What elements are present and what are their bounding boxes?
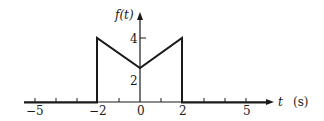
x-tick-label-0: 0 xyxy=(137,105,145,117)
function-plot xyxy=(0,0,324,121)
function-curve xyxy=(24,38,268,103)
y-tick-label-4: 4 xyxy=(130,33,138,45)
x-axis-label: t xyxy=(278,96,283,108)
x-tick-label-2: 2 xyxy=(179,105,187,117)
y-tick-label-2: 2 xyxy=(130,75,138,87)
x-tick-label-neg5: −5 xyxy=(26,105,44,117)
y-axis-label: f(t) xyxy=(115,9,134,21)
y-axis-arrow-icon xyxy=(137,12,143,20)
x-tick-label-neg2: −2 xyxy=(89,105,107,117)
x-axis-unit: (s) xyxy=(293,96,309,108)
x-tick-label-5: 5 xyxy=(243,105,251,117)
figure-canvas: f(t) 4 2 −5 −2 0 2 5 t (s) xyxy=(0,0,324,121)
